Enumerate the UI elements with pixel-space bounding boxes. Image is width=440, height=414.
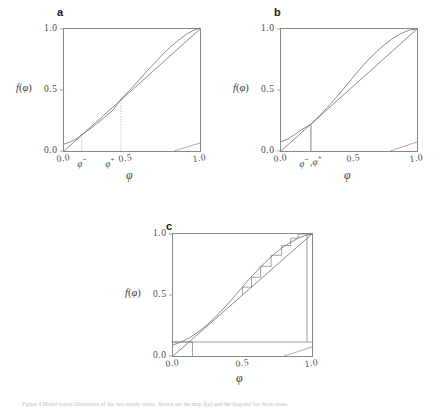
panel-c-ytick-label-1: 1.0 — [153, 228, 166, 238]
panel-c-xlabel: φ — [236, 371, 243, 386]
panel-b-baseline-wedge — [390, 142, 417, 151]
panel-a-xtick-label-05: 0.5 — [118, 152, 133, 164]
panel-a-ytick-label-05: 0.5 — [44, 84, 57, 94]
panel-c-xtick-label-05: 0.5 — [235, 357, 250, 369]
panel-c-ytick-label-05: 0.5 — [153, 289, 166, 299]
figure-caption: Figure 4 Model-based illustration of the… — [22, 401, 434, 413]
panel-a-phi-minus-label: φ− — [76, 155, 88, 169]
panel-b-identity-line — [281, 29, 417, 151]
panel-c-baseline-wedge — [284, 347, 312, 356]
panel-a-ytick-label-1: 1.0 — [44, 23, 57, 33]
panel-c-ylabel: f(φ) — [125, 287, 141, 298]
panel-b-curves — [281, 29, 417, 151]
panel-a-xtick-label-0: 0.0 — [56, 152, 71, 164]
panel-a-curves — [64, 28, 200, 151]
panel-a-tick-marks — [60, 29, 64, 151]
panel-b-tick-marks — [277, 29, 281, 151]
panel-b-map-curve — [281, 29, 417, 142]
panel-c-canvas — [108, 200, 358, 390]
panel-b-ytick-label-1: 1.0 — [261, 23, 274, 33]
panel-b-xtick-label-0: 0.0 — [273, 152, 288, 164]
panel-b-xlabel: φ — [344, 168, 351, 183]
panel-a-ylabel: f(φ) — [16, 82, 32, 93]
panel-a: a f(φ) 0.0 0.5 — [0, 0, 215, 195]
panel-a-baseline-wedge — [174, 143, 200, 151]
panel-b-xtick-label-1: 1.0 — [409, 152, 424, 164]
panel-a-xlabel: φ — [126, 168, 133, 183]
panel-a-phi-plus-label: φ+ — [104, 155, 116, 169]
panel-c-tick-marks — [169, 234, 173, 356]
figure-root: a f(φ) 0.0 0.5 — [0, 0, 440, 414]
panel-c-xtick-label-1: 1.0 — [304, 357, 319, 369]
panel-b-ylabel: f(φ) — [233, 82, 249, 93]
panel-b-ytick-label-05: 0.5 — [261, 84, 274, 94]
panel-c: c f(φ) 0.0 0.5 1.0 0.0 — [108, 200, 358, 390]
panel-c-xtick-label-0: 0.0 — [165, 357, 180, 369]
panel-b-canvas — [218, 0, 440, 195]
panel-a-map-curve — [64, 28, 200, 144]
panel-a-xtick-label-1: 1.0 — [192, 152, 207, 164]
panel-b: b f(φ) 0.0 0.5 1.0 0.0 0.5 1.0 φ−,φ+ φ — [218, 0, 440, 195]
panel-b-xtick-label-05: 0.5 — [346, 152, 361, 164]
